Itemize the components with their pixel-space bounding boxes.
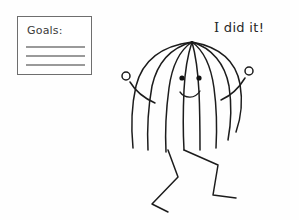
left-eye: [179, 75, 184, 80]
right-leg: [184, 150, 236, 198]
caption-text: I did it!: [214, 20, 264, 35]
goals-rule-3: [26, 64, 85, 66]
left-hand-circle: [122, 72, 130, 80]
legs-group: [152, 150, 236, 212]
right-eye: [196, 75, 201, 80]
right-hand-circle: [245, 67, 253, 75]
goals-rule-1: [26, 46, 85, 48]
goals-rule-2: [26, 55, 85, 57]
goals-title: Goals:: [27, 24, 63, 37]
goals-note-box[interactable]: Goals:: [17, 16, 92, 75]
illustration-canvas: Goals: I did it!: [0, 0, 299, 220]
left-leg: [152, 150, 178, 212]
caption-rest: did it!: [219, 20, 264, 35]
